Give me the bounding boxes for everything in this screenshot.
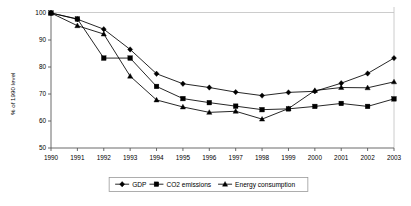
- y-tick-label: 50: [39, 144, 47, 151]
- chart-container: % of 1990 level 5060708090100 1990199119…: [0, 0, 411, 206]
- data-point: [181, 96, 186, 101]
- data-point: [154, 84, 159, 89]
- x-tick-label: 2003: [387, 154, 402, 161]
- data-point: [101, 56, 106, 61]
- x-tick-label: 1997: [229, 154, 244, 161]
- y-axis-title-text: % of 1990 level: [9, 73, 16, 115]
- data-point: [392, 97, 397, 102]
- data-point: [339, 101, 344, 106]
- y-axis-title: % of 1990 level: [9, 73, 16, 115]
- line-chart: % of 1990 level 5060708090100 1990199119…: [0, 0, 411, 206]
- legend-label: CO2 emissions: [166, 181, 211, 188]
- data-point: [313, 104, 318, 109]
- chart-legend: GDPCO2 emissionsEnergy consumption: [109, 178, 308, 192]
- data-point: [365, 104, 370, 109]
- chart-background: [0, 0, 411, 206]
- x-tick-label: 2001: [334, 154, 349, 161]
- legend-label: Energy consumption: [235, 181, 295, 189]
- x-tick-label: 1993: [123, 154, 138, 161]
- legend-marker-square: [154, 182, 159, 187]
- x-tick-label: 1999: [281, 154, 296, 161]
- data-point: [233, 104, 238, 109]
- y-tick-label: 90: [39, 36, 47, 43]
- data-point: [75, 17, 80, 22]
- legend-label: GDP: [132, 181, 147, 188]
- data-point: [207, 100, 212, 105]
- y-tick-label: 60: [39, 117, 47, 124]
- x-tick-label: 1996: [202, 154, 217, 161]
- x-tick-label: 2000: [308, 154, 323, 161]
- x-tick-label: 1994: [149, 154, 164, 161]
- x-tick-label: 1998: [255, 154, 270, 161]
- x-tick-label: 1991: [70, 154, 85, 161]
- x-tick-label: 1995: [176, 154, 191, 161]
- x-tick-label: 2002: [361, 154, 376, 161]
- y-tick-label: 100: [35, 9, 46, 16]
- y-tick-label: 80: [39, 63, 47, 70]
- x-tick-label: 1990: [44, 154, 59, 161]
- y-tick-label: 70: [39, 90, 47, 97]
- x-tick-label: 1992: [97, 154, 112, 161]
- data-point: [128, 56, 133, 61]
- data-point: [260, 107, 265, 112]
